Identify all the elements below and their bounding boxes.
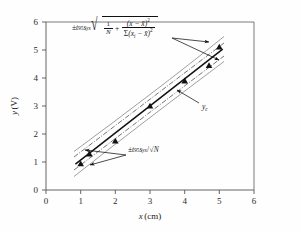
- y-tick-6: 6: [34, 17, 39, 27]
- y-axis-title-var: y: [9, 111, 19, 116]
- y-tick-4: 4: [34, 73, 39, 83]
- x-tick-6: 6: [252, 196, 257, 206]
- x-tick-3: 3: [148, 196, 153, 206]
- x-axis-title: x(cm): [138, 211, 162, 221]
- y-tick-3: 3: [34, 101, 39, 111]
- y-axis-title-unit: (V): [9, 97, 19, 110]
- prediction-formula-term2: (x − x̄)2 Σ(xi − x̄)2: [122, 18, 155, 39]
- figure-canvas: 0 1 2 3 4 5 6 0 1 2 3 4 5 6 x(cm) y(V): [0, 0, 300, 232]
- confidence-formula-lead: ±t95syx: [128, 146, 147, 154]
- mean-confidence-formula: ±t95syx / √N: [128, 146, 214, 166]
- prediction-formula-term1: 1 N: [104, 21, 113, 36]
- prediction-interval-formula: ±t95syx √ 1 N + (x − x̄)2 Σ(xi − x̄)2: [72, 16, 202, 60]
- x-axis-title-var: x: [138, 211, 143, 221]
- x-tick-0: 0: [44, 196, 49, 206]
- confidence-formula-radical: √N: [150, 146, 159, 154]
- y-tick-5: 5: [34, 45, 39, 55]
- x-tick-5: 5: [217, 196, 222, 206]
- prediction-formula-lead: ±t95syx: [72, 24, 91, 32]
- prediction-formula-radical: √ 1 N + (x − x̄)2 Σ(xi − x̄)2: [91, 16, 158, 39]
- x-tick-1: 1: [78, 196, 83, 206]
- x-tick-4: 4: [182, 196, 187, 206]
- chart-svg: 0 1 2 3 4 5 6 0 1 2 3 4 5 6 x(cm) y(V): [0, 0, 300, 232]
- x-tick-2: 2: [113, 196, 118, 206]
- y-tick-0: 0: [34, 185, 39, 195]
- y-tick-2: 2: [34, 129, 39, 139]
- svg-text:x(cm): x(cm): [138, 211, 162, 221]
- x-axis-title-unit: (cm): [144, 211, 161, 221]
- y-axis-title: y(V): [9, 97, 19, 116]
- y-tick-1: 1: [34, 157, 39, 167]
- svg-text:y(V): y(V): [9, 97, 19, 116]
